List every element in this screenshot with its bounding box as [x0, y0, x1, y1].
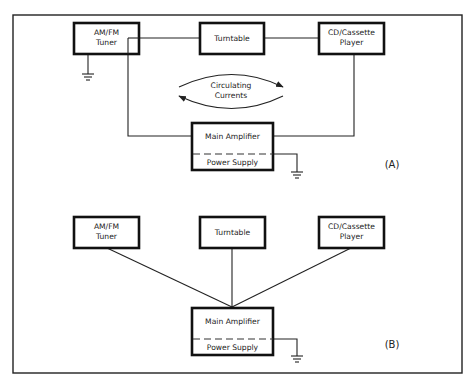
amplifier-label: Main Amplifier: [205, 132, 261, 141]
tuner-box: AM/FM Tuner: [74, 23, 139, 54]
wire-tuner-to-amp: [107, 248, 232, 307]
tuner-box: AM/FM Tuner: [74, 217, 139, 248]
tuner-label-line1: AM/FM: [94, 28, 119, 37]
panel-b: AM/FM Tuner Turntable CD/Cassette Player…: [74, 217, 399, 362]
panel-a: AM/FM Tuner Turntable CD/Cassette Player…: [74, 23, 399, 178]
panel-b-label: (B): [385, 339, 400, 350]
wire-cd-to-amp: [273, 54, 354, 136]
ground-icon: [291, 356, 303, 362]
ground-loop-diagram: AM/FM Tuner Turntable CD/Cassette Player…: [0, 0, 473, 380]
power-supply-label: Power Supply: [207, 158, 259, 167]
ground-icon: [82, 74, 94, 80]
cd-player-box: CD/Cassette Player: [319, 23, 384, 54]
tuner-label-line2: Tuner: [95, 38, 118, 47]
wire-cd-to-amp: [232, 248, 351, 307]
panel-a-label: (A): [385, 159, 400, 170]
amplifier-label: Main Amplifier: [205, 317, 261, 326]
turntable-label: Turntable: [213, 34, 250, 43]
turntable-label: Turntable: [214, 228, 251, 237]
amp-ground-wire: [273, 339, 297, 356]
ground-icon: [291, 172, 303, 178]
annotation-line2: Currents: [215, 91, 248, 100]
amp-ground-wire: [273, 154, 297, 172]
amplifier-box: Main Amplifier Power Supply: [192, 123, 273, 170]
cd-label-line2: Player: [340, 232, 365, 241]
cd-label-line2: Player: [340, 38, 365, 47]
annotation-line1: Circulating: [211, 81, 252, 90]
amplifier-box: Main Amplifier Power Supply: [192, 308, 273, 355]
cd-label-line1: CD/Cassette: [328, 222, 375, 231]
tuner-label-line1: AM/FM: [94, 222, 119, 231]
cd-player-box: CD/Cassette Player: [319, 217, 384, 248]
tuner-label-line2: Tuner: [95, 232, 118, 241]
turntable-box: Turntable: [200, 217, 265, 248]
turntable-box: Turntable: [200, 23, 264, 54]
power-supply-label: Power Supply: [207, 343, 259, 352]
cd-label-line1: CD/Cassette: [328, 28, 375, 37]
